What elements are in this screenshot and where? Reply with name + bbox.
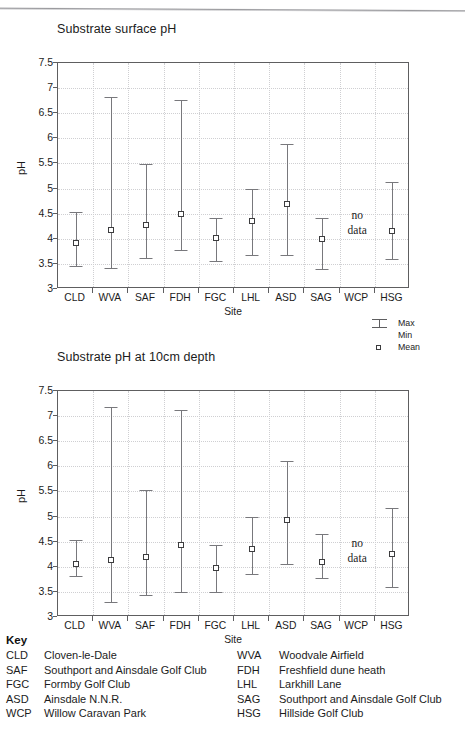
gridline-vertical [93,63,94,287]
y-axis-tick-label: 3.5 [21,257,53,269]
error-bar-cap-max [316,218,329,219]
y-axis-tick-mark [53,566,57,567]
key-site-name: Southport and Ainsdale Golf Club [44,664,237,676]
error-bar-stem [146,490,147,595]
key-site-name: Hillside Golf Club [279,707,461,719]
error-bar-stem [322,534,323,578]
error-bar-cap-min [280,255,293,256]
gridline-vertical [128,391,129,615]
y-axis-tick-label: 7.5 [21,56,53,68]
x-axis-tick-mark [233,616,234,621]
no-data-annotation: nodata [348,208,367,237]
chart-title: Substrate surface pH [57,22,176,36]
y-axis-tick-label: 3 [21,610,53,622]
error-bar-stem [287,461,288,564]
y-axis-tick-mark [53,62,57,63]
y-axis-tick-mark [53,516,57,517]
x-axis-tick-mark [127,288,128,293]
error-bar-icon [372,319,387,328]
key-site-name: Woodvale Airfield [279,649,461,661]
y-axis-tick-mark [53,213,57,214]
y-axis-tick-mark [53,591,57,592]
gridline-vertical [234,63,235,287]
y-axis-tick-label: 7 [21,81,53,93]
key-code: WVA [237,649,279,661]
y-axis-tick-mark [53,616,57,617]
error-bar-cap-max [210,545,223,546]
y-axis-tick-mark [53,87,57,88]
mean-marker [108,557,114,563]
key-code: HSG [237,707,279,719]
x-axis-tick-mark [92,616,93,621]
error-bar-cap-max [245,517,258,518]
x-axis-tick-label: ASD [275,292,296,303]
scan-artifact-line [0,7,465,13]
mean-marker [319,559,325,565]
key-code: ASD [6,693,44,705]
error-bar-cap-max [386,182,399,183]
key-code: SAF [6,664,44,676]
x-axis-tick-mark [268,288,269,293]
key-heading: Key [6,634,461,646]
error-bar-cap-min [316,578,329,579]
key-section: Key CLDCloven-le-DaleWVAWoodvale Airfiel… [6,634,461,719]
error-bar-cap-min [175,250,188,251]
key-site-name: Southport and Ainsdale Golf Club [279,693,461,705]
gridline-vertical [128,63,129,287]
gridline-vertical [269,391,270,615]
y-axis-tick-mark [53,288,57,289]
x-axis-tick-mark [374,288,375,293]
error-bar-cap-max [175,100,188,101]
error-bar-cap-min [280,564,293,565]
legend-row-mean: Mean [370,342,465,354]
error-bar-cap-min [140,258,153,259]
error-bar-cap-min [316,269,329,270]
chart-legend: Max Min Mean [370,318,465,354]
error-bar-cap-min [245,574,258,575]
y-axis-tick-mark [53,440,57,441]
no-data-line-2: data [348,223,367,237]
x-axis-title: Site [57,306,409,317]
x-axis-tick-mark [163,288,164,293]
x-axis-tick-label: FGC [205,620,227,631]
error-bar-cap-max [245,189,258,190]
y-axis-tick-label: 3 [21,282,53,294]
error-bar-cap-max [175,410,188,411]
error-bar-cap-max [69,212,82,213]
error-bar-cap-min [140,595,153,596]
x-axis-tick-mark [127,616,128,621]
error-bar-cap-min [104,268,117,269]
x-axis-tick-label: HSG [380,620,402,631]
x-axis-tick-label: HSG [380,292,402,303]
mean-marker [213,235,219,241]
error-bar-cap-min [69,266,82,267]
key-grid: CLDCloven-le-DaleWVAWoodvale AirfieldSAF… [6,649,461,719]
x-axis-tick-mark [233,288,234,293]
y-axis-tick-label: 4 [21,232,53,244]
error-bar-cap-max [140,490,153,491]
y-axis-tick-mark [53,188,57,189]
y-axis-tick-label: 4 [21,560,53,572]
error-bar-cap-min [175,592,188,593]
key-code: FGC [6,678,44,690]
y-axis-tick-label: 6 [21,131,53,143]
x-axis-tick-label: SAF [135,292,155,303]
x-axis-tick-mark [374,616,375,621]
chart-title: Substrate pH at 10cm depth [57,350,215,364]
key-code: SAG [237,693,279,705]
gridline-vertical [199,391,200,615]
mean-marker [284,517,290,523]
no-data-line-2: data [348,551,367,565]
square-marker-icon [376,345,381,350]
plot-area: nodata [57,390,409,616]
legend-label-mean: Mean [398,342,420,352]
error-bar-stem [76,540,77,576]
gridline-vertical [234,391,235,615]
key-site-name: Freshfield dune heath [279,664,461,676]
mean-marker [143,222,149,228]
y-axis-tick-label: 5 [21,510,53,522]
mean-marker [249,546,255,552]
x-axis-tick-label: WCP [344,620,368,631]
error-bar-cap-min [104,602,117,603]
legend-row-min: Min [370,330,465,342]
